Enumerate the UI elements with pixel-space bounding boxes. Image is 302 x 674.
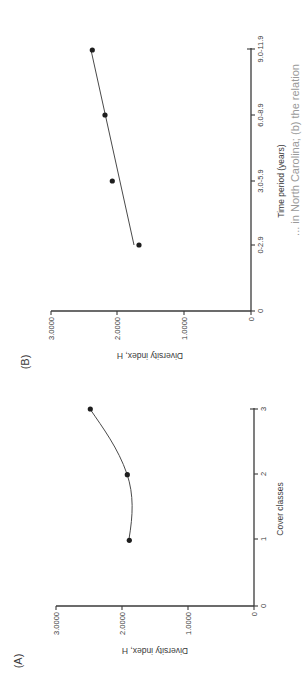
y-tick-a-3: 3.0000 (52, 612, 61, 635)
data-point (136, 242, 141, 247)
data-point (127, 538, 132, 543)
x-axis-label-a: Cover classes (275, 482, 285, 535)
y-tick-a-2: 2.0000 (118, 612, 127, 635)
x-tick-a-0: 0 (259, 604, 268, 608)
y-axis-label-b: Diversity index, H (117, 351, 183, 361)
y-tick-b-0: 0 (247, 317, 256, 321)
data-point (90, 47, 95, 52)
y-tick-a-0: 0 (250, 612, 259, 616)
panel-label-a: (A) (12, 654, 24, 669)
regression-line-b (91, 50, 134, 245)
x-tick-b-3: 6.0-8.9 (256, 103, 265, 126)
data-point (102, 112, 107, 117)
y-tick-b-1: 1.0000 (180, 317, 189, 340)
panel-label-b: (B) (19, 355, 31, 370)
data-point (125, 472, 130, 477)
y-tick-b-2: 2.0000 (113, 317, 122, 340)
figure: (B) 3.0000 2.0000 1.0000 0 Diversity ind… (0, 0, 302, 674)
panel-a: (A) 3.0000 2.0000 1.0000 0 Diversity ind… (12, 406, 285, 668)
x-tick-a-2: 2 (259, 472, 268, 476)
y-tick-b-3: 3.0000 (47, 317, 56, 340)
x-tick-b-0: 0 (256, 309, 265, 313)
x-tick-a-1: 1 (259, 537, 268, 541)
data-point (88, 406, 93, 411)
caption: ... in North Carolina; (b) the relation (289, 64, 301, 236)
x-tick-b-4: 9.0-11.9 (256, 36, 265, 63)
y-axis-label-a: Diversity index, H (122, 646, 188, 656)
data-points-a (88, 406, 132, 543)
panel-b: (B) 3.0000 2.0000 1.0000 0 Diversity ind… (19, 36, 286, 370)
x-tick-b-2: 3.0-5.9 (256, 169, 265, 192)
data-point (110, 178, 115, 183)
x-axis-label-b: Time period (years) (276, 144, 286, 218)
y-tick-a-1: 1.0000 (184, 612, 193, 635)
x-tick-b-1: 0-2.9 (256, 236, 265, 253)
x-tick-a-3: 3 (259, 407, 268, 411)
